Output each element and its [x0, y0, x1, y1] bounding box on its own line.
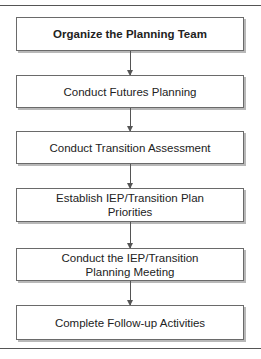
step-label: Complete Follow-up Activities: [55, 316, 205, 330]
step-label: Conduct the IEP/Transition Planning Meet…: [47, 251, 213, 279]
step-label: Conduct Transition Assessment: [49, 141, 210, 155]
step-conduct-transition-assessment: Conduct Transition Assessment: [16, 131, 244, 164]
step-label: Establish IEP/Transition Plan Priorities: [47, 191, 213, 219]
step-label: Organize the Planning Team: [53, 27, 207, 41]
step-conduct-iep-meeting: Conduct the IEP/Transition Planning Meet…: [16, 248, 244, 281]
step-conduct-futures-planning: Conduct Futures Planning: [16, 75, 244, 108]
arrow-down-icon: [130, 51, 131, 75]
arrow-down-icon: [130, 222, 131, 248]
top-rule: [0, 5, 261, 6]
arrow-down-icon: [130, 164, 131, 188]
step-establish-iep-priorities: Establish IEP/Transition Plan Priorities: [16, 188, 244, 222]
step-complete-follow-up: Complete Follow-up Activities: [16, 305, 244, 340]
step-label: Conduct Futures Planning: [64, 85, 197, 99]
bottom-rule: [0, 348, 261, 349]
arrow-down-icon: [130, 108, 131, 131]
arrow-down-icon: [130, 281, 131, 305]
step-organize-planning-team: Organize the Planning Team: [16, 17, 244, 51]
